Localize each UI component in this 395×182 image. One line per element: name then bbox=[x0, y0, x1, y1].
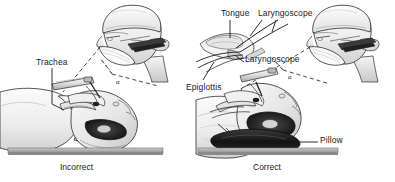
table-correct bbox=[198, 148, 338, 155]
label-laryngoscope-upper: Laryngoscope bbox=[258, 9, 313, 18]
panel-correct-illustration bbox=[196, 5, 379, 158]
panel-incorrect-illustration bbox=[0, 5, 169, 155]
leader-line-laryngoscope-upper bbox=[250, 20, 276, 36]
angle-label-incorrect: α bbox=[116, 78, 120, 86]
label-laryngoscope-lower: Laryngoscope bbox=[245, 55, 300, 64]
label-epiglottis: Epiglottis bbox=[186, 83, 222, 92]
airway-cross-section-inset bbox=[196, 20, 288, 72]
patient-figure-incorrect bbox=[0, 77, 137, 152]
label-tongue: Tongue bbox=[221, 9, 250, 18]
caption-correct: Correct bbox=[253, 163, 281, 172]
angle-label-correct: α bbox=[288, 73, 292, 81]
table-incorrect bbox=[8, 148, 163, 155]
clinician-figure-right bbox=[307, 5, 379, 82]
clinician-figure-left bbox=[97, 5, 169, 82]
laryngoscopy-positioning-figure: Trachea Tongue Laryngoscope Laryngoscope… bbox=[0, 0, 395, 182]
caption-incorrect: Incorrect bbox=[60, 163, 93, 172]
label-pillow: Pillow bbox=[320, 136, 343, 145]
label-trachea: Trachea bbox=[36, 58, 68, 67]
